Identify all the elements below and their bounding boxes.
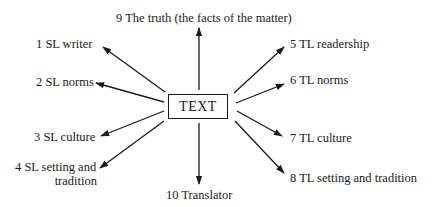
node-tl-culture: 7 TL culture: [290, 131, 352, 145]
node-sl-writer: 1 SL writer: [36, 37, 92, 51]
node-translator: 10 Translator: [166, 188, 232, 202]
node-tl-readership: 5 TL readership: [290, 37, 369, 51]
arrow-to-tl-norms: [236, 84, 284, 103]
arrow-to-sl-norms: [96, 83, 164, 102]
node-sl-culture: 3 SL culture: [34, 130, 95, 144]
arrow-to-sl-culture: [101, 111, 164, 136]
arrow-to-sl-writer: [103, 47, 165, 92]
text-node-label: TEXT: [179, 99, 217, 115]
node-sl-setting: 4 SL setting and tradition: [15, 160, 97, 188]
arrow-to-tl-culture: [237, 111, 282, 136]
node-sl-setting-line1: 4 SL setting and: [15, 160, 97, 174]
node-tl-norms: 6 TL norms: [290, 73, 348, 87]
arrow-to-tl-setting: [235, 121, 284, 173]
node-sl-setting-line2: tradition: [15, 174, 97, 188]
text-node: TEXT: [168, 94, 228, 119]
node-truth: 9 The truth (the facts of the matter): [116, 11, 292, 25]
arrow-to-tl-readership: [234, 47, 284, 93]
node-tl-setting: 8 TL setting and tradition: [290, 171, 417, 185]
arrow-to-sl-setting: [100, 121, 164, 168]
node-sl-norms: 2 SL norms: [36, 75, 94, 89]
